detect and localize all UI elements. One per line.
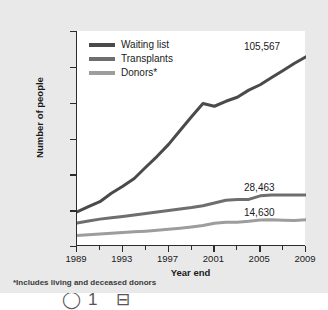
series-end-value-label: 105,567: [244, 41, 280, 52]
x-tick-mark: [213, 246, 214, 252]
x-tick-label: 2009: [281, 253, 328, 264]
chart-legend: Waiting listTransplantsDonors*: [89, 38, 173, 80]
legend-color-swatch: [89, 71, 115, 74]
page-bottom-strip: ◯1 ⊟: [0, 293, 328, 310]
x-tick-mark: [122, 246, 123, 252]
legend-item-label: Waiting list: [121, 40, 169, 50]
series-line: [77, 220, 306, 236]
legend-color-swatch: [89, 57, 115, 60]
x-tick-mark-minor: [191, 246, 192, 250]
x-tick-mark: [259, 246, 260, 252]
x-tick-label: 2001: [189, 253, 237, 264]
x-tick-mark: [305, 246, 306, 252]
x-tick-mark: [168, 246, 169, 252]
chart-figure: Number of people 120,000100,00080,00060,…: [0, 0, 328, 293]
legend-item-label: Donors*: [121, 68, 157, 78]
x-tick-mark: [76, 246, 77, 252]
x-tick-mark-minor: [282, 246, 283, 250]
x-tick-mark-minor: [99, 246, 100, 250]
legend-item-label: Transplants: [121, 54, 173, 64]
chart-footnote: *Includes living and deceased donors: [13, 278, 156, 287]
x-tick-mark-minor: [145, 246, 146, 250]
legend-color-swatch: [89, 43, 115, 46]
x-tick-label: 2005: [235, 253, 283, 264]
legend-item[interactable]: Transplants: [89, 52, 173, 66]
series-end-value-label: 28,463: [244, 182, 275, 193]
x-tick-mark-minor: [236, 246, 237, 250]
x-axis-title: Year end: [76, 267, 305, 278]
x-tick-label: 1993: [98, 253, 146, 264]
x-tick-label: 1997: [144, 253, 192, 264]
legend-item[interactable]: Donors*: [89, 66, 173, 80]
y-axis-title: Number of people: [34, 58, 45, 178]
cut-off-glyphs: ◯1 ⊟: [62, 293, 137, 310]
series-end-value-label: 14,630: [244, 207, 275, 218]
legend-item[interactable]: Waiting list: [89, 38, 173, 52]
x-tick-label: 1989: [52, 253, 100, 264]
